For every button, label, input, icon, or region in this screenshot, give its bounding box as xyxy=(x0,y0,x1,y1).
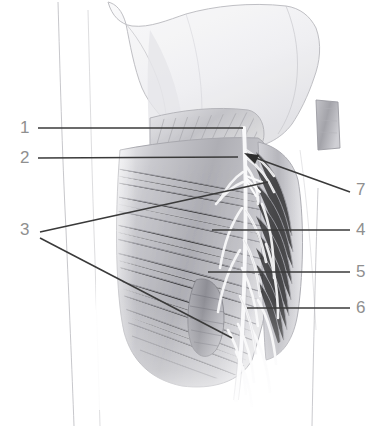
label-5: 5 xyxy=(356,263,365,280)
greater-trochanter xyxy=(316,100,340,150)
label-4: 4 xyxy=(356,221,365,238)
bottom-fade xyxy=(110,300,310,427)
leader-2 xyxy=(38,157,238,158)
anatomical-figure: 1 2 3 7 4 5 6 xyxy=(0,0,380,427)
label-1: 1 xyxy=(20,119,29,136)
label-6: 6 xyxy=(356,299,365,316)
label-2: 2 xyxy=(20,149,29,166)
label-7: 7 xyxy=(356,181,365,198)
anatomy-illustration xyxy=(0,0,380,427)
label-3: 3 xyxy=(20,221,29,238)
